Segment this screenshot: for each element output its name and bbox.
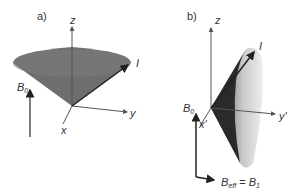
panel-a: a) z y x I B0 bbox=[13, 10, 139, 137]
b0-label: B0 bbox=[183, 102, 194, 115]
panel-a-label: a) bbox=[37, 10, 47, 22]
vector-label: I bbox=[259, 40, 262, 52]
z-axis-label: z bbox=[69, 14, 76, 26]
beff-label: Beff = B1 bbox=[221, 176, 260, 189]
x-axis bbox=[63, 106, 72, 124]
precession-diagram: a) z y x I B0 b) z y' x' bbox=[0, 0, 301, 194]
b0-label: B0 bbox=[17, 81, 28, 94]
z-axis-label: z bbox=[214, 14, 221, 26]
x-axis-label: x bbox=[60, 124, 67, 136]
vector-label: I bbox=[136, 57, 139, 69]
panel-b: b) z y' x' I B0 Beff = B1 bbox=[183, 10, 288, 189]
y-axis-label: y bbox=[129, 107, 137, 119]
panel-b-label: b) bbox=[187, 10, 197, 22]
y-prime-axis-label: y' bbox=[278, 110, 288, 122]
y-axis bbox=[72, 106, 127, 112]
beff-arrow bbox=[196, 177, 214, 180]
x-prime-axis-label: x' bbox=[198, 118, 208, 130]
